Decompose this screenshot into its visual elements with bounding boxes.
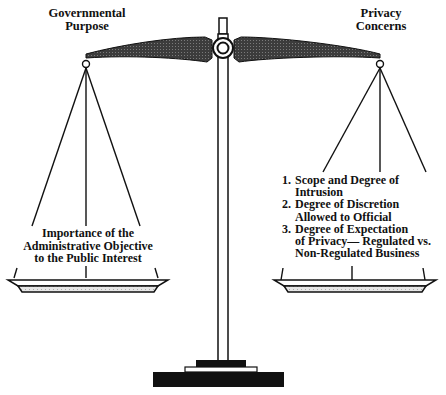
left-pan-text-line1: Importance of the <box>10 227 166 240</box>
right-title-line2: Concerns <box>316 20 446 33</box>
pivot-icon <box>213 38 233 58</box>
left-pan-text-line3: to the Public Interest <box>10 252 166 265</box>
list-item-number: 2. <box>282 198 295 222</box>
right-pan-list: 1. Scope and Degree of Intrusion 2. Degr… <box>282 174 442 259</box>
base <box>153 360 284 387</box>
right-pan <box>274 280 436 292</box>
left-title: Governmental Purpose <box>22 7 152 33</box>
list-item-text: Degree of Expectation of Privacy— Regula… <box>295 223 442 260</box>
left-pan-text: Importance of the Administrative Objecti… <box>10 227 166 265</box>
right-title: Privacy Concerns <box>316 7 446 33</box>
list-item-line: Allowed to Official <box>295 211 442 223</box>
list-item-text: Scope and Degree of Intrusion <box>295 174 442 198</box>
left-pan <box>8 280 168 292</box>
list-item: 2. Degree of Discretion Allowed to Offic… <box>282 198 442 222</box>
list-item-line: Non-Regulated Business <box>295 247 442 259</box>
list-item-text: Degree of Discretion Allowed to Official <box>295 198 442 222</box>
list-item: 3. Degree of Expectation of Privacy— Reg… <box>282 223 442 260</box>
list-item-number: 1. <box>282 174 295 198</box>
list-item-number: 3. <box>282 223 295 260</box>
center-post <box>218 18 228 364</box>
list-item: 1. Scope and Degree of Intrusion <box>282 174 442 198</box>
left-title-line2: Purpose <box>22 20 152 33</box>
list-item-line: Degree of Discretion <box>295 198 442 210</box>
